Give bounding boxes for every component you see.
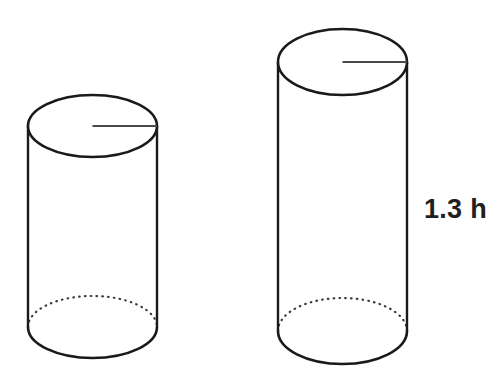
cylinder-figure: 1.3 h — [0, 0, 498, 390]
right-cylinder-height-label: 1.3 h — [424, 196, 487, 223]
left-cylinder — [28, 95, 157, 358]
right-cylinder-body-fill — [278, 62, 407, 364]
right-cylinder — [278, 29, 407, 364]
left-cylinder-body-fill — [28, 126, 157, 358]
